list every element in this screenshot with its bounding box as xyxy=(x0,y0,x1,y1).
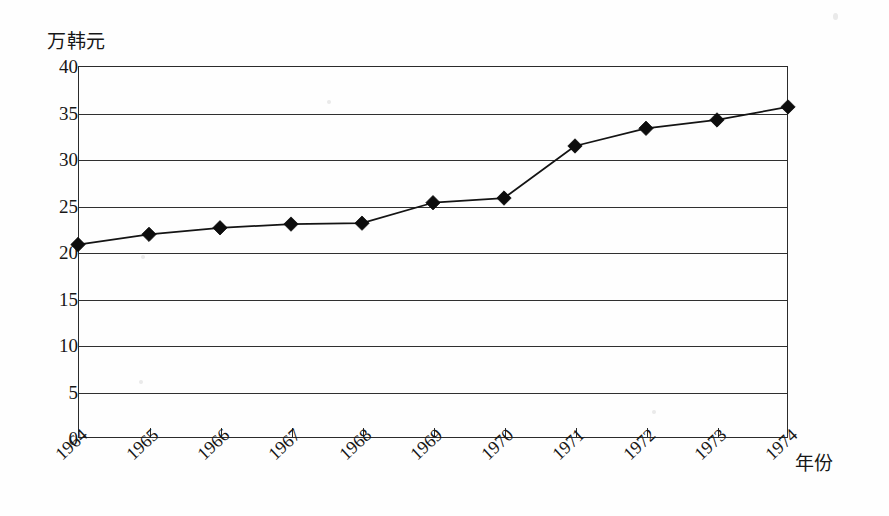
plot-area xyxy=(78,66,788,438)
gridline xyxy=(79,253,787,254)
y-axis-tick-label: 5 xyxy=(38,383,78,402)
gridline xyxy=(79,114,787,115)
scan-speckle xyxy=(652,410,656,414)
x-axis-title: 年份 xyxy=(795,448,833,475)
scan-speckle xyxy=(327,100,331,104)
y-axis-unit-label: 万韩元 xyxy=(47,26,106,53)
gridline xyxy=(79,160,787,161)
y-axis-tick-label: 15 xyxy=(38,290,78,309)
gridline xyxy=(79,346,787,347)
chart-container: 万韩元 0510152025303540 1964196519661967196… xyxy=(0,0,889,516)
scan-speckle xyxy=(139,380,143,384)
y-axis-tick-label: 10 xyxy=(38,336,78,355)
gridline xyxy=(79,300,787,301)
scan-speckle xyxy=(833,13,838,20)
gridline xyxy=(79,207,787,208)
y-axis-tick-label: 30 xyxy=(38,150,78,169)
gridline xyxy=(79,393,787,394)
y-axis-tick-label: 25 xyxy=(38,197,78,216)
y-axis-tick-label: 40 xyxy=(38,57,78,76)
y-axis-tick-label: 20 xyxy=(38,243,78,262)
y-axis-tick-label: 35 xyxy=(38,104,78,123)
scan-speckle xyxy=(141,255,145,259)
